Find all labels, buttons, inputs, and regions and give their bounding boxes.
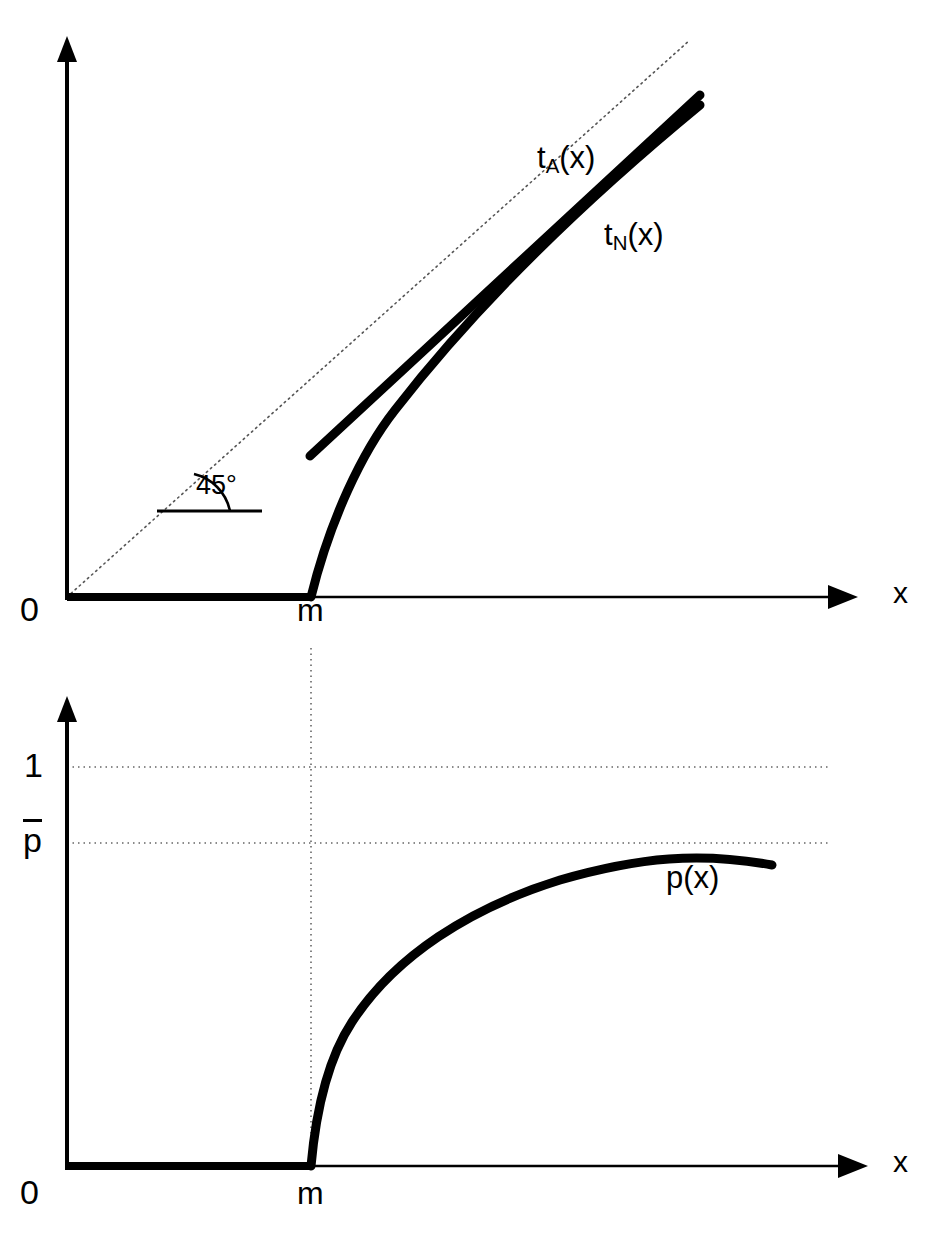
bottom-origin-tick-label: 0 [20, 1175, 39, 1209]
curve-label-tn: tN(x) [604, 219, 664, 254]
y-tick-one-label: 1 [24, 748, 43, 782]
reference-line-45deg [67, 40, 690, 597]
bottom-x-axis-arrow [838, 1154, 868, 1178]
y-tick-pbar-label: p [23, 819, 42, 857]
curve-ta [310, 95, 700, 456]
top-y-axis-arrow [57, 36, 77, 62]
curve-tn [311, 105, 700, 597]
angle-45-label: 45° [196, 472, 237, 499]
curve-label-tn-subscript: N [613, 231, 628, 254]
bottom-chart-svg [0, 640, 934, 1237]
bottom-x-axis-label: x [893, 1147, 908, 1177]
top-x-axis-arrow [828, 585, 858, 609]
bottom-y-axis-arrow [57, 696, 77, 722]
top-chart-svg [0, 0, 934, 640]
top-x-axis-label: x [893, 578, 908, 608]
figure-root: tA(x) tN(x) 45° x 0 m p(x) [0, 0, 934, 1237]
chart-panel-top: tA(x) tN(x) 45° x 0 m [0, 0, 934, 640]
curve-label-ta: tA(x) [537, 142, 595, 177]
curve-label-p: p(x) [666, 862, 719, 893]
chart-panel-bottom: p(x) 1 p x 0 m [0, 640, 934, 1237]
curve-label-ta-subscript: A [546, 154, 560, 177]
top-origin-tick-label: 0 [20, 592, 39, 626]
curve-p [311, 858, 772, 1166]
pbar-overbar: p [23, 819, 42, 857]
bottom-m-tick-label: m [297, 1177, 324, 1209]
top-m-tick-label: m [297, 594, 324, 626]
